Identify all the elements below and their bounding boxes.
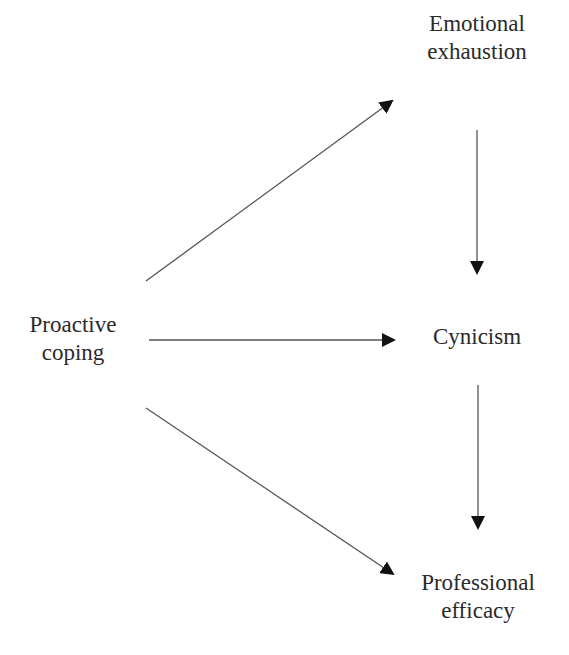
node-cynicism: Cynicism — [402, 323, 552, 351]
path-diagram: Proactive coping Emotional exhaustion Cy… — [0, 0, 569, 655]
node-label-line: Cynicism — [402, 323, 552, 351]
edge-proactive-to-emotional-exhaustion — [146, 101, 392, 281]
node-label-line: exhaustion — [402, 38, 552, 66]
node-label-line: efficacy — [400, 597, 556, 625]
node-label-line: Professional — [400, 569, 556, 597]
node-proactive-coping: Proactive coping — [0, 311, 146, 367]
node-label-line: Emotional — [402, 10, 552, 38]
node-emotional-exhaustion: Emotional exhaustion — [402, 10, 552, 66]
node-label-line: coping — [0, 339, 146, 367]
node-label-line: Proactive — [0, 311, 146, 339]
node-professional-efficacy: Professional efficacy — [400, 569, 556, 625]
edge-proactive-to-professional-efficacy — [146, 408, 393, 574]
